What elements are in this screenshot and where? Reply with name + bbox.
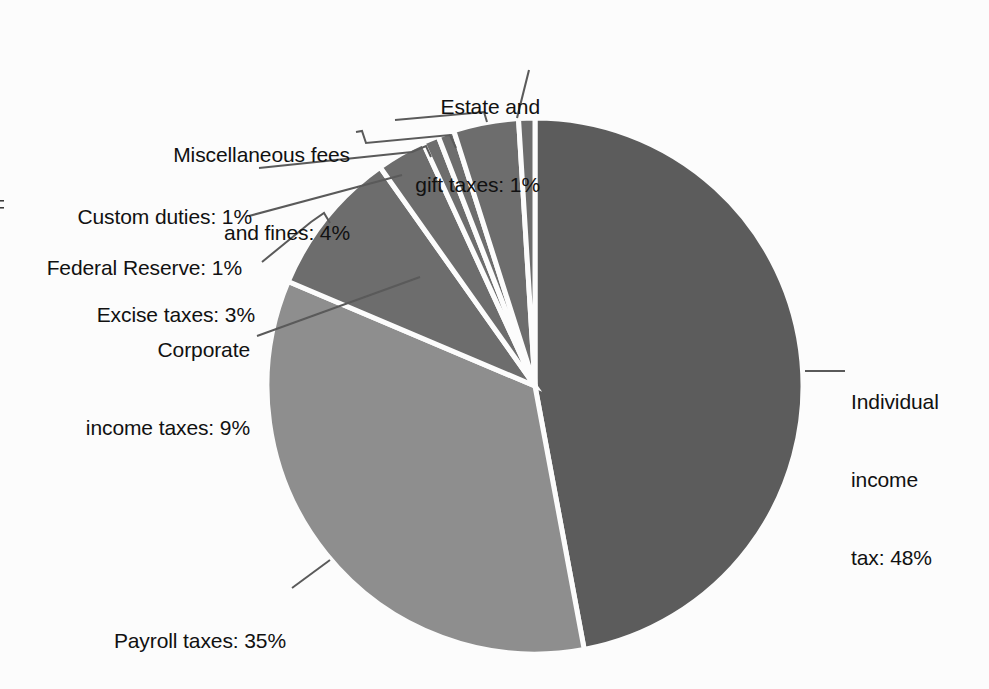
edge-text-fragment: F — [0, 196, 4, 222]
label-corporate-income-taxes-line2: income taxes: 9% — [55, 415, 250, 441]
label-payroll-taxes: Payroll taxes: 35% — [88, 576, 286, 689]
label-corporate-income-taxes-line1: Corporate — [55, 337, 250, 363]
leader-line-payroll-taxes — [292, 560, 330, 588]
label-individual-income-tax-line2: income — [851, 467, 989, 493]
label-corporate-income-taxes: Corporate income taxes: 9% — [55, 285, 250, 493]
label-estate-and-gift-taxes: Estate and gift taxes: 1% — [340, 42, 540, 250]
label-payroll-taxes-line1: Payroll taxes: 35% — [88, 628, 286, 654]
label-estate-and-gift-taxes-line1: Estate and — [340, 94, 540, 120]
label-individual-income-tax-line1: Individual — [851, 389, 989, 415]
label-estate-and-gift-taxes-line2: gift taxes: 1% — [340, 172, 540, 198]
chart-canvas: Estate and gift taxes: 1% Miscellaneous … — [0, 0, 989, 689]
label-individual-income-tax: Individual income tax: 48% — [851, 337, 989, 623]
pie-slice-individual-income-tax — [535, 118, 803, 649]
label-individual-income-tax-line3: tax: 48% — [851, 545, 989, 571]
